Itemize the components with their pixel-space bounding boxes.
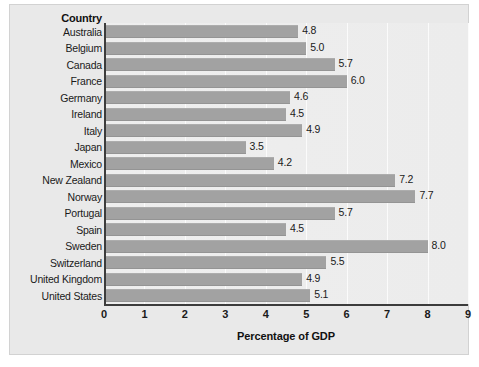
x-axis-title: Percentage of GDP bbox=[104, 330, 468, 342]
bar-row: 4.9 bbox=[104, 271, 468, 288]
x-tick-label: 0 bbox=[92, 308, 116, 320]
bar-value-label: 5.7 bbox=[339, 206, 353, 218]
category-label: Sweden bbox=[10, 240, 102, 252]
bar bbox=[104, 25, 298, 38]
bar bbox=[104, 91, 290, 104]
category-label: Germany bbox=[10, 92, 102, 104]
bar-value-label: 4.6 bbox=[294, 90, 308, 102]
bar-row: 4.2 bbox=[104, 155, 468, 172]
bar-row: 5.7 bbox=[104, 205, 468, 222]
bar-row: 6.0 bbox=[104, 73, 468, 90]
category-label: Portugal bbox=[10, 207, 102, 219]
category-label: United Kingdom bbox=[10, 273, 102, 285]
category-label: Norway bbox=[10, 191, 102, 203]
bar bbox=[104, 174, 395, 187]
category-label: Ireland bbox=[10, 108, 102, 120]
plot-area: 4.85.05.76.04.64.54.93.54.27.27.75.74.58… bbox=[104, 23, 468, 304]
x-tick-label: 7 bbox=[375, 308, 399, 320]
bar-row: 4.9 bbox=[104, 122, 468, 139]
bar-row: 5.5 bbox=[104, 254, 468, 271]
bar-value-label: 4.9 bbox=[306, 123, 320, 135]
category-label: Spain bbox=[10, 224, 102, 236]
bar-row: 5.0 bbox=[104, 40, 468, 57]
bar-value-label: 3.5 bbox=[250, 140, 264, 152]
category-column-header: Country bbox=[10, 12, 102, 24]
bar-value-label: 8.0 bbox=[432, 239, 446, 251]
chart-panel: Country 4.85.05.76.04.64.54.93.54.27.27.… bbox=[9, 4, 469, 355]
bar bbox=[104, 58, 335, 71]
bar bbox=[104, 273, 302, 286]
bar-row: 3.5 bbox=[104, 139, 468, 156]
bar bbox=[104, 289, 310, 302]
category-label: France bbox=[10, 75, 102, 87]
category-label: United States bbox=[10, 290, 102, 302]
category-label: Canada bbox=[10, 59, 102, 71]
bar-value-label: 5.5 bbox=[330, 255, 344, 267]
bar-row: 8.0 bbox=[104, 238, 468, 255]
bar bbox=[104, 108, 286, 121]
bar bbox=[104, 42, 306, 55]
bar bbox=[104, 190, 415, 203]
bar-row: 4.6 bbox=[104, 89, 468, 106]
x-tick-label: 3 bbox=[213, 308, 237, 320]
bar-value-label: 5.1 bbox=[314, 288, 328, 300]
x-axis-line bbox=[104, 304, 468, 306]
x-tick-label: 5 bbox=[294, 308, 318, 320]
bar-row: 4.5 bbox=[104, 221, 468, 238]
bar-value-label: 5.7 bbox=[339, 57, 353, 69]
bar bbox=[104, 223, 286, 236]
bar-value-label: 4.2 bbox=[278, 156, 292, 168]
bar-row: 5.7 bbox=[104, 56, 468, 73]
bar bbox=[104, 124, 302, 137]
x-tick-label: 1 bbox=[132, 308, 156, 320]
bar bbox=[104, 256, 326, 269]
bar bbox=[104, 141, 246, 154]
bar bbox=[104, 207, 335, 220]
bar bbox=[104, 157, 274, 170]
category-label: Japan bbox=[10, 141, 102, 153]
bar-row: 5.1 bbox=[104, 287, 468, 304]
category-label: New Zealand bbox=[10, 174, 102, 186]
category-label: Italy bbox=[10, 125, 102, 137]
category-label: Belgium bbox=[10, 42, 102, 54]
bar-value-label: 4.5 bbox=[290, 107, 304, 119]
bar-value-label: 4.5 bbox=[290, 222, 304, 234]
category-label: Mexico bbox=[10, 158, 102, 170]
bar-row: 4.5 bbox=[104, 106, 468, 123]
bar-value-label: 4.8 bbox=[302, 24, 316, 36]
category-label: Australia bbox=[10, 26, 102, 38]
x-tick-label: 9 bbox=[456, 308, 479, 320]
bar bbox=[104, 75, 347, 88]
category-label: Switzerland bbox=[10, 257, 102, 269]
y-axis-line bbox=[104, 23, 106, 305]
x-tick-label: 4 bbox=[254, 308, 278, 320]
bar-row: 7.7 bbox=[104, 188, 468, 205]
x-tick-label: 8 bbox=[416, 308, 440, 320]
bar-value-label: 6.0 bbox=[351, 74, 365, 86]
x-tick-label: 2 bbox=[173, 308, 197, 320]
bar-row: 7.2 bbox=[104, 172, 468, 189]
bar-row: 4.8 bbox=[104, 23, 468, 40]
bar-value-label: 4.9 bbox=[306, 272, 320, 284]
x-tick-label: 6 bbox=[335, 308, 359, 320]
bar bbox=[104, 240, 428, 253]
bar-value-label: 7.2 bbox=[399, 173, 413, 185]
bar-value-label: 5.0 bbox=[310, 41, 324, 53]
bar-value-label: 7.7 bbox=[419, 189, 433, 201]
gridline bbox=[468, 23, 469, 304]
